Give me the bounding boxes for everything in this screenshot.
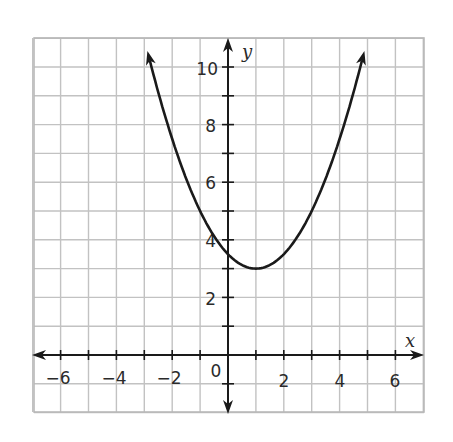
x-tick-label-6: 6 (390, 371, 401, 391)
y-tick-label-4: 4 (205, 231, 216, 251)
x-tick-label-neg2: −2 (156, 368, 181, 388)
y-axis-label: y (241, 41, 253, 62)
y-tick-label-8: 8 (205, 116, 216, 136)
y-axis (222, 38, 234, 414)
coordinate-plane: −6 −4 −2 0 2 4 6 2 4 6 8 10 y x (0, 0, 453, 442)
x-tick-label-neg4: −4 (101, 368, 126, 388)
y-tick-label-10: 10 (196, 59, 218, 79)
y-tick-label-2: 2 (205, 289, 216, 309)
x-tick-label-4: 4 (335, 371, 346, 391)
y-tick-label-6: 6 (205, 173, 216, 193)
x-tick-label-neg6: −6 (45, 368, 70, 388)
origin-label: 0 (211, 361, 222, 381)
x-tick-label-2: 2 (279, 371, 290, 391)
x-axis-label: x (405, 330, 415, 351)
